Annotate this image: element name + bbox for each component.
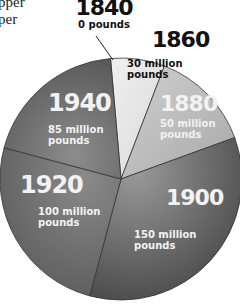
label-1900: 1900	[166, 186, 223, 210]
amount-1940-line1: 85 million	[48, 124, 111, 135]
label-1920: 1920 100 million pounds	[20, 172, 100, 228]
label-1940: 1940 85 million pounds	[48, 90, 111, 146]
label-1840: 1840 0 pounds	[64, 0, 144, 30]
amount-1880-line1: 50 million	[160, 118, 217, 129]
year-1940: 1940	[48, 90, 111, 116]
leader-line-1840	[96, 36, 113, 60]
year-1840: 1840	[64, 0, 144, 20]
year-1860: 1860	[152, 28, 209, 52]
amount-1900: 150 million pounds	[134, 229, 196, 251]
amount-1880-line2: pounds	[160, 129, 217, 140]
amount-1860: 30 million pounds	[127, 58, 183, 80]
amount-1860-line2: pounds	[127, 69, 183, 80]
year-1900: 1900	[166, 186, 223, 210]
amount-1940-line2: pounds	[48, 135, 111, 146]
amount-1900-line2: pounds	[134, 240, 196, 251]
year-1880: 1880	[160, 92, 217, 116]
amount-1860-line1: 30 million	[127, 58, 183, 69]
amount-1900-line1: 150 million	[134, 229, 196, 240]
amount-1920-line1: 100 million	[38, 206, 100, 217]
amount-1920-line2: pounds	[38, 217, 100, 228]
year-1920: 1920	[20, 172, 100, 198]
label-1880: 1880 50 million pounds	[160, 92, 217, 140]
amount-1840: 0 pounds	[64, 19, 144, 30]
label-1860: 1860	[152, 28, 209, 52]
